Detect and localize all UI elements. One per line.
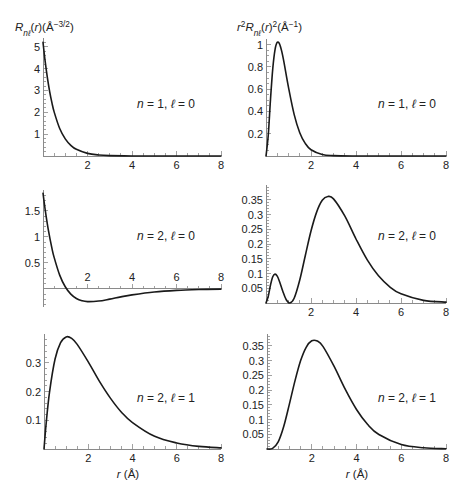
figure-background (0, 0, 470, 500)
x-tick-label: 4 (129, 271, 135, 283)
y-tick-label: 0.4 (248, 105, 263, 117)
quantum-number-label: n = 1, ℓ = 0 (378, 97, 436, 111)
y-tick-label: 0.25 (242, 223, 263, 235)
x-tick-label: 2 (84, 271, 90, 283)
y-tick-label: 0.15 (243, 399, 264, 411)
y-tick-label: 2 (34, 106, 40, 118)
y-tick-label: 0.5 (25, 257, 40, 269)
y-tick-label: 3 (34, 84, 40, 96)
y-tick-label: 0.2 (249, 384, 264, 396)
x-tick-label: 8 (218, 271, 224, 283)
x-tick-label: 2 (308, 159, 314, 171)
x-tick-label: 6 (398, 306, 404, 318)
x-tick-label: 4 (129, 452, 135, 464)
quantum-number-label: n = 2, ℓ = 1 (137, 391, 195, 405)
y-tick-label: 0.8 (248, 61, 263, 73)
y-tick-label: 0.05 (242, 282, 263, 294)
radial-wavefunction-figure: 246812345n = 1, ℓ = 0Rnℓ(r)(Å−3/2) 24680… (0, 0, 470, 500)
x-axis-title: r (Å) (117, 468, 140, 480)
y-tick-label: 0.1 (248, 268, 263, 280)
y-tick-label: 0.3 (248, 209, 263, 221)
x-tick-label: 6 (173, 271, 179, 283)
x-tick-label: 6 (398, 159, 404, 171)
x-tick-label: 2 (308, 306, 314, 318)
x-tick-label: 6 (398, 452, 404, 464)
y-tick-label: 0.15 (242, 253, 263, 265)
quantum-number-label: n = 2, ℓ = 0 (378, 229, 436, 243)
x-tick-label: 6 (173, 159, 179, 171)
x-tick-label: 4 (353, 306, 359, 318)
x-tick-label: 4 (353, 452, 359, 464)
y-tick-label: 0.35 (243, 340, 264, 352)
x-tick-label: 8 (443, 159, 449, 171)
y-tick-label: 0.05 (243, 428, 264, 440)
y-tick-label: 0.2 (248, 128, 263, 140)
y-tick-label: 5 (34, 41, 40, 53)
y-tick-label: 1.5 (25, 205, 40, 217)
x-tick-label: 8 (443, 306, 449, 318)
x-tick-label: 2 (85, 452, 91, 464)
x-tick-label: 8 (443, 452, 449, 464)
x-tick-label: 4 (129, 159, 135, 171)
y-tick-label: 1 (34, 128, 40, 140)
y-tick-label: 0.3 (249, 355, 264, 367)
x-tick-label: 8 (218, 159, 224, 171)
quantum-number-label: n = 2, ℓ = 0 (137, 229, 195, 243)
x-tick-label: 2 (84, 159, 90, 171)
x-tick-label: 8 (218, 452, 224, 464)
y-tick-label: 4 (34, 63, 40, 75)
quantum-number-label: n = 2, ℓ = 1 (378, 391, 436, 405)
y-tick-label: 0.2 (248, 238, 263, 250)
quantum-number-label: n = 1, ℓ = 0 (137, 97, 195, 111)
x-axis-title: r (Å) (346, 468, 369, 480)
y-tick-label: 0.2 (26, 386, 41, 398)
y-tick-label: 1 (34, 231, 40, 243)
y-tick-label: 0.35 (242, 194, 263, 206)
y-tick-label: 0.6 (248, 83, 263, 95)
x-tick-label: 2 (309, 452, 315, 464)
x-tick-label: 6 (174, 452, 180, 464)
y-tick-label: 0.25 (243, 369, 264, 381)
y-tick-label: 1 (257, 39, 263, 51)
x-tick-label: 4 (353, 159, 359, 171)
y-tick-label: 0.1 (249, 414, 264, 426)
y-tick-label: 0.1 (26, 414, 41, 426)
y-tick-label: 0.3 (26, 357, 41, 369)
